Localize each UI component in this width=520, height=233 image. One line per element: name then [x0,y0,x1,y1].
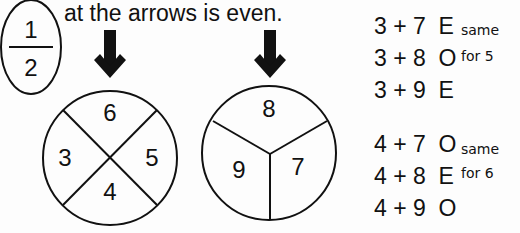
equation-expr: 3 + 9 [374,77,426,103]
parity-result: O [439,45,457,71]
down-arrow-icon [254,30,286,78]
equation-row: 4 + 7 O [374,131,456,158]
equation-row: 3 + 8 O [374,45,456,72]
note-line: same [461,141,499,157]
parity-result: E [439,13,454,39]
note-line: for 5 [461,48,494,64]
equation-expr: 3 + 7 [374,13,426,39]
spinner-left-section: 4 [103,178,116,205]
equation-expr: 4 + 7 [374,131,426,157]
equation-expr: 3 + 8 [374,45,426,71]
note-line: for 6 [461,165,494,181]
spinner-left-section: 5 [145,144,158,171]
equation-row: 4 + 8 E [374,163,454,190]
spinner-left-section: 6 [103,99,116,126]
parity-result: O [439,195,457,221]
equation-expr: 4 + 8 [374,163,426,189]
diagram-graphics: 1 2 6 5 4 3 8 7 9 [0,0,370,233]
spinner-left-section: 3 [58,144,71,171]
equation-expr: 4 + 9 [374,195,426,221]
spinner-right-section: 9 [232,156,245,183]
fraction-numerator: 1 [24,16,37,43]
parity-result: E [439,77,454,103]
parity-result: E [439,163,454,189]
spinner-right-section: 7 [291,153,304,180]
equation-row: 3 + 9 E [374,77,454,104]
spinner-right: 8 7 9 [202,86,336,220]
down-arrow-icon [94,30,126,78]
instruction-text: at the arrows is even. [64,0,283,27]
parity-result: O [439,131,457,157]
equation-row: 3 + 7 E [374,13,454,40]
spinner-left: 6 5 4 3 [43,91,177,225]
spinner-right-section: 8 [262,95,275,122]
equation-row: 4 + 9 O [374,195,456,222]
note-line: same [461,22,499,38]
fraction-denominator: 2 [24,54,37,81]
